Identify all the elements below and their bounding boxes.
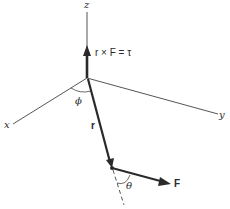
y-axis-label: y	[219, 110, 225, 120]
phi-angle-label: ϕ	[75, 96, 82, 106]
theta-angle-label: θ	[126, 181, 132, 191]
force-vector-F	[112, 168, 164, 182]
diagram-canvas	[0, 0, 230, 209]
torque-arrowhead-icon	[83, 45, 91, 56]
torque-cross-product-diagram: z x y r × F = τ r F ϕ θ	[0, 0, 230, 209]
force-vector-label: F	[174, 179, 180, 189]
position-vector-label: r	[91, 121, 95, 131]
torque-label: r × F = τ	[95, 48, 131, 58]
r-extension-dashed	[113, 170, 124, 205]
phi-angle-arc	[71, 88, 91, 92]
force-arrowhead-icon	[158, 177, 171, 186]
y-axis	[87, 78, 218, 114]
x-axis-label: x	[4, 120, 10, 130]
z-axis-label: z	[84, 0, 89, 10]
